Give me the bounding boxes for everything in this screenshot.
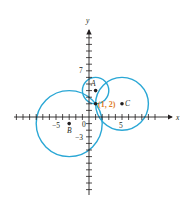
point-c bbox=[120, 102, 124, 106]
point-label-b: B bbox=[67, 126, 72, 135]
point-a bbox=[94, 89, 98, 93]
x-axis-label: x bbox=[175, 113, 180, 122]
tick-label-y-7: 7 bbox=[79, 66, 83, 75]
point-label-c: C bbox=[125, 99, 131, 108]
point-label-a: A bbox=[90, 79, 96, 88]
point-label-intersection: (1, 2) bbox=[98, 100, 116, 109]
tick-label-origin: 0 bbox=[82, 120, 86, 129]
coordinate-plane-diagram: x y −5 5 7 −3 0 A B C (1, 2) bbox=[0, 0, 191, 216]
point-p bbox=[94, 102, 98, 106]
point-b bbox=[67, 122, 71, 126]
tick-label-x-neg5: −5 bbox=[52, 121, 60, 130]
y-axis-label: y bbox=[85, 16, 90, 25]
tick-label-x-5: 5 bbox=[119, 121, 123, 130]
tick-label-y-neg3: −3 bbox=[75, 133, 83, 142]
